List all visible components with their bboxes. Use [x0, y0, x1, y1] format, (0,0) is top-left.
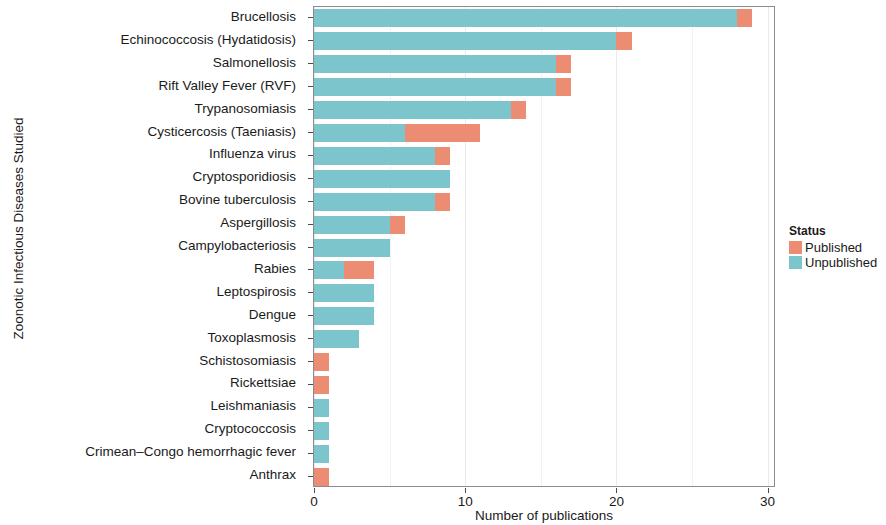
- y-axis-tick-label: Salmonellosis: [213, 52, 296, 74]
- legend: Status PublishedUnpublished: [789, 224, 884, 270]
- bar-segment-unpublished: [314, 445, 329, 463]
- legend-swatch-published: [789, 241, 802, 254]
- bar-row: [314, 193, 450, 211]
- bar-segment-unpublished: [314, 170, 450, 188]
- bar-segment-unpublished: [314, 32, 616, 50]
- bar-segment-unpublished: [314, 239, 390, 257]
- bar-row: [314, 170, 450, 188]
- bar-segment-published: [390, 216, 405, 234]
- bar-row: [314, 353, 329, 371]
- y-axis-tick-label: Rickettsiae: [230, 372, 296, 394]
- y-axis-tick-label: Leptospirosis: [216, 281, 296, 303]
- y-axis-tick-label: Crimean–Congo hemorrhagic fever: [85, 441, 296, 463]
- y-axis-tick-label: Trypanosomiasis: [194, 98, 296, 120]
- gridline-30: [768, 7, 769, 486]
- x-axis-tick: [465, 488, 466, 493]
- x-axis-tick-label: 0: [294, 494, 334, 509]
- legend-item[interactable]: Published: [789, 240, 884, 255]
- bar-segment-unpublished: [314, 216, 390, 234]
- y-axis-tick-label: Brucellosis: [231, 6, 296, 28]
- bar-row: [314, 9, 752, 27]
- bar-segment-published: [314, 468, 329, 486]
- bar-segment-unpublished: [314, 55, 556, 73]
- bar-row: [314, 147, 450, 165]
- bar-segment-unpublished: [314, 422, 329, 440]
- bar-row: [314, 55, 571, 73]
- bar-segment-unpublished: [314, 307, 374, 325]
- bar-segment-published: [556, 55, 571, 73]
- bar-segment-unpublished: [314, 261, 344, 279]
- y-axis-tick-label: Schistosomiasis: [199, 350, 296, 372]
- bar-row: [314, 284, 374, 302]
- bar-segment-unpublished: [314, 399, 329, 417]
- y-axis-tick-label: Rabies: [254, 258, 296, 280]
- y-axis-tick-label: Anthrax: [249, 464, 296, 486]
- y-axis-tick-label: Leishmaniasis: [210, 395, 296, 417]
- bar-row: [314, 422, 329, 440]
- y-axis-tick-label: Dengue: [249, 304, 296, 326]
- y-axis-tick-label: Bovine tuberculosis: [179, 189, 296, 211]
- zoonotic-disease-publications-chart: Zoonotic Infectious Diseases Studied Bru…: [0, 0, 886, 525]
- bar-segment-unpublished: [314, 124, 405, 142]
- bar-segment-published: [314, 353, 329, 371]
- bar-segment-published: [435, 193, 450, 211]
- bar-row: [314, 78, 571, 96]
- bar-row: [314, 101, 526, 119]
- y-axis-tick-label: Rift Valley Fever (RVF): [158, 75, 296, 97]
- x-axis-tick-label: 30: [748, 494, 788, 509]
- y-axis-tick-label: Toxoplasmosis: [207, 327, 296, 349]
- bar-row: [314, 330, 359, 348]
- x-axis-tick: [616, 488, 617, 493]
- bar-segment-unpublished: [314, 78, 556, 96]
- bar-row: [314, 376, 329, 394]
- bar-row: [314, 32, 632, 50]
- legend-label: Unpublished: [805, 255, 877, 270]
- gridline-20: [616, 7, 617, 486]
- bar-row: [314, 307, 374, 325]
- bar-segment-published: [616, 32, 631, 50]
- gridline-25: [692, 7, 693, 486]
- legend-item[interactable]: Unpublished: [789, 255, 884, 270]
- bar-segment-unpublished: [314, 147, 435, 165]
- legend-items: PublishedUnpublished: [789, 240, 884, 270]
- bar-row: [314, 445, 329, 463]
- bar-row: [314, 216, 405, 234]
- bar-segment-published: [511, 101, 526, 119]
- bar-segment-published: [556, 78, 571, 96]
- y-axis-tick-label: Echinococcosis (Hydatidosis): [120, 29, 296, 51]
- x-axis-tick-label: 20: [596, 494, 636, 509]
- legend-label: Published: [805, 240, 862, 255]
- x-axis-tick: [768, 488, 769, 493]
- bar-row: [314, 399, 329, 417]
- y-axis-category-labels: BrucellosisEchinococcosis (Hydatidosis)S…: [0, 6, 305, 487]
- y-axis-tick-label: Aspergillosis: [220, 212, 296, 234]
- bar-row: [314, 239, 390, 257]
- legend-title: Status: [789, 224, 884, 238]
- bar-row: [314, 261, 374, 279]
- bar-segment-unpublished: [314, 330, 359, 348]
- plot-panel: [313, 6, 775, 487]
- bar-segment-unpublished: [314, 284, 374, 302]
- bar-row: [314, 124, 480, 142]
- x-axis-tick: [314, 488, 315, 493]
- bar-row: [314, 468, 329, 486]
- y-axis-tick-label: Campylobacteriosis: [178, 235, 296, 257]
- y-axis-tick-label: Cryptococcosis: [204, 418, 296, 440]
- bar-segment-published: [737, 9, 752, 27]
- bar-segment-published: [314, 376, 329, 394]
- legend-swatch-unpublished: [789, 256, 802, 269]
- bar-segment-published: [405, 124, 481, 142]
- bar-segment-unpublished: [314, 193, 435, 211]
- y-axis-tick-label: Cryptosporidiosis: [192, 166, 296, 188]
- x-axis-tick-label: 10: [445, 494, 485, 509]
- bar-segment-published: [344, 261, 374, 279]
- x-axis-title: Number of publications: [313, 508, 775, 523]
- y-axis-tick-label: Influenza virus: [209, 143, 296, 165]
- y-axis-tick-label: Cysticercosis (Taeniasis): [147, 121, 296, 143]
- bar-segment-unpublished: [314, 101, 511, 119]
- bar-segment-unpublished: [314, 9, 737, 27]
- bar-segment-published: [435, 147, 450, 165]
